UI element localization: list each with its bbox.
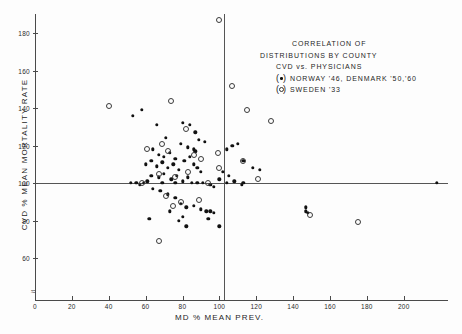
data-point [139,180,145,186]
data-point [229,83,235,89]
data-point [227,174,230,177]
y-tick-160 [33,71,38,72]
data-point [159,189,162,192]
data-point [155,123,158,126]
y-tick-60 [33,258,38,259]
data-point [244,107,250,113]
data-point [178,199,184,205]
data-point [162,172,165,175]
data-point [168,209,171,212]
x-tick-100 [219,296,220,300]
data-point [216,165,222,171]
x-tick-label-120: 120 [250,303,262,310]
data-point [172,174,178,180]
legend: CORRELATION OF DISTRIBUTIONS BY COUNTY C… [258,38,417,96]
data-point [197,138,200,141]
data-point [196,166,199,169]
legend-entry-1-label: NORWAY '46, DENMARK '50,'60 [290,73,417,85]
data-point [242,181,245,184]
data-point [201,181,204,184]
x-tick-label-100: 100 [214,303,226,310]
data-point [186,176,189,179]
data-point [307,212,313,218]
data-point [172,163,175,166]
data-point [181,121,184,124]
data-point [216,17,222,23]
y-tick-180 [33,33,38,34]
data-point [185,169,191,175]
x-tick-label-180: 180 [361,303,373,310]
legend-entry-sweden: SWEDEN '33 [258,84,417,96]
data-point [196,181,199,184]
y-tick-80 [33,221,38,222]
data-point [165,148,171,154]
data-point [194,131,197,134]
data-point [203,140,206,143]
data-point [162,155,165,158]
data-point [161,181,164,184]
open-circle-icon [276,84,287,95]
x-tick-40 [109,296,110,300]
data-point [156,171,162,177]
data-point [215,150,221,156]
y-tick-120 [33,146,38,147]
data-point [190,181,193,184]
data-point [173,181,176,184]
scatter-chart-figure: ≈ 020406080100120140160180200 6080100120… [0,0,462,334]
data-point [184,206,187,209]
x-tick-label-80: 80 [179,303,187,310]
data-point [179,142,182,145]
data-point [168,98,174,104]
data-point [205,180,211,186]
data-point [157,153,160,156]
data-point [140,108,143,111]
x-tick-label-20: 20 [68,303,76,310]
y-tick-100 [33,183,38,184]
data-point [161,161,164,164]
data-point [170,203,176,209]
x-tick-160 [330,296,331,300]
data-point [106,103,112,109]
legend-title-line3: CVD vs. PHYSICIANS [258,61,417,73]
legend-entry-2-label: SWEDEN '33 [290,84,341,96]
data-point [183,126,189,132]
data-point [144,146,150,152]
x-tick-80 [183,296,184,300]
data-point [173,196,176,199]
data-point [258,168,261,171]
legend-title-line2: DISTRIBUTIONS BY COUNTY [258,50,417,62]
x-tick-120 [256,296,257,300]
x-tick-180 [367,296,368,300]
data-point [159,141,165,147]
legend-entry-norway-denmark: NORWAY '46, DENMARK '50,'60 [258,73,417,85]
data-point [251,166,254,169]
data-point [149,159,152,162]
y-tick-label-180: 180 [10,30,30,37]
x-tick-label-0: 0 [33,303,37,310]
data-point [192,204,195,207]
data-point [191,152,197,158]
data-point [212,211,215,214]
x-tick-label-200: 200 [398,303,410,310]
data-point [435,181,438,184]
x-tick-label-140: 140 [287,303,299,310]
data-point [166,166,169,169]
data-point [225,181,228,184]
y-tick-label-60: 60 [10,255,30,262]
x-tick-60 [146,296,147,300]
data-point [151,148,154,151]
x-tick-label-60: 60 [142,303,150,310]
y-axis-break-symbol: ≈ [31,287,35,296]
data-point [164,136,167,139]
data-point [218,178,221,181]
filled-circle-icon [276,73,287,84]
data-point [144,163,147,166]
x-tick-label-40: 40 [105,303,113,310]
x-tick-20 [72,296,73,300]
x-axis-title: MD % MEAN PREV. [175,313,264,322]
data-point [151,187,154,190]
data-point [184,224,187,227]
data-point [268,118,274,124]
data-point [183,159,186,162]
data-point [129,181,132,184]
